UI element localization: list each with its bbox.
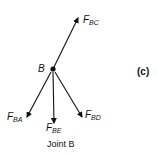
force-label-bc: FBC <box>83 15 99 26</box>
force-arrow-bc <box>54 18 78 67</box>
joint-point <box>50 66 55 71</box>
joint-label: B <box>38 64 45 74</box>
diagram-caption: Joint B <box>47 139 75 149</box>
panel-label: (c) <box>137 66 149 77</box>
force-label-ba: FBA <box>7 112 22 123</box>
force-diagram <box>0 0 158 154</box>
force-arrow-ba <box>27 72 51 117</box>
force-label-be: FBE <box>46 123 61 134</box>
force-arrow-be <box>53 72 54 123</box>
force-arrow-bd <box>55 72 82 117</box>
force-label-bd: FBD <box>85 110 101 121</box>
